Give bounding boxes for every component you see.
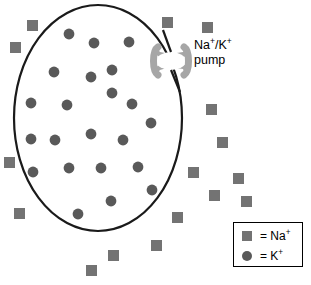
potassium-ion [64, 29, 75, 40]
sodium-ion [188, 167, 199, 178]
potassium-ion [28, 167, 39, 178]
sodium-ion-square-swatch [234, 231, 260, 241]
potassium-ion [26, 98, 37, 109]
sodium-ion [86, 265, 97, 276]
sodium-ion [206, 104, 217, 115]
potassium-ion [50, 135, 61, 146]
legend-label-potassium-sup: + [278, 248, 283, 257]
sodium-ion [172, 212, 183, 223]
potassium-ion [73, 209, 84, 220]
potassium-ion [107, 88, 118, 99]
legend-row-sodium: = Na+ [234, 225, 302, 246]
sodium-ion [162, 17, 173, 28]
sodium-square-glyph [242, 231, 252, 241]
potassium-ion [96, 163, 107, 174]
pump-label-slash-k: /K [215, 38, 227, 52]
legend-label-sodium-sup: + [286, 228, 291, 237]
potassium-ion [86, 129, 97, 140]
potassium-ion [146, 118, 157, 129]
pump-label-na: Na [194, 38, 210, 52]
potassium-ion [89, 38, 100, 49]
legend-label-potassium-base: = K [260, 249, 278, 263]
legend-label-potassium: = K+ [260, 249, 283, 263]
sodium-ion [14, 208, 25, 219]
sodium-ion [151, 240, 162, 251]
potassium-ion [118, 135, 129, 146]
potassium-ion [107, 65, 118, 76]
sodium-ion [4, 157, 15, 168]
legend-label-sodium: = Na+ [260, 229, 290, 243]
potassium-ion [147, 185, 158, 196]
sodium-ion [217, 137, 228, 148]
potassium-ion [86, 72, 97, 83]
potassium-ion [49, 67, 60, 78]
pump-label-line2: pump [194, 53, 232, 68]
legend-label-sodium-base: = Na [260, 229, 286, 243]
sodium-ion [27, 20, 38, 31]
potassium-ion [62, 100, 73, 111]
pump-label-k-sup: + [227, 36, 232, 46]
potassium-ion [64, 163, 75, 174]
pump-label-line1: Na+/K+ [194, 38, 232, 52]
sodium-ion [209, 190, 220, 201]
cell-membrane-outline [14, 5, 182, 231]
potassium-ion [124, 37, 135, 48]
legend-row-potassium: = K+ [234, 245, 302, 266]
sodium-ion [108, 250, 119, 261]
cell-membrane-diagram: Na+/K+ pump = Na+ = K+ [0, 0, 311, 285]
pump-label: Na+/K+ pump [194, 38, 232, 68]
potassium-ion [133, 162, 144, 173]
sodium-ion [202, 22, 213, 33]
potassium-ion-circle-swatch [234, 251, 260, 261]
sodium-ion [241, 196, 252, 207]
sodium-ion [10, 42, 21, 53]
sodium-ion [233, 173, 244, 184]
potassium-ion [127, 99, 138, 110]
potassium-circle-glyph [242, 251, 252, 261]
potassium-ion [26, 134, 37, 145]
legend-box: = Na+ = K+ [233, 222, 303, 267]
potassium-ion [106, 196, 117, 207]
